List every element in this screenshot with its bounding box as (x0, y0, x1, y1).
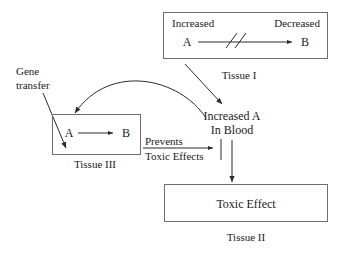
tissue-one-decreased-label: Decreased (274, 17, 320, 29)
tissue-one-species-b: B (301, 35, 309, 49)
tissue-two-caption: Tissue II (227, 231, 266, 243)
gene-transfer-line-one: Gene (16, 65, 39, 77)
blood-node-line-one: Increased A (204, 109, 261, 123)
toxic-effect-label: Toxic Effect (216, 197, 276, 211)
blocked-slash-icon (235, 33, 246, 48)
prevents-edge-line-one: Prevents (145, 135, 183, 147)
tissue-three-species-a: A (65, 126, 74, 140)
tissue-three-caption: Tissue III (74, 158, 116, 170)
tissue-one-caption: Tissue I (222, 69, 257, 81)
blood-to-tissue-three-curve (75, 81, 206, 118)
tissue-one-species-a: A (183, 35, 192, 49)
gene-transfer-line-two: transfer (16, 79, 50, 91)
gene-transfer-arrow (43, 93, 66, 148)
blocked-slash-icon (226, 33, 237, 48)
pathway-diagram: Increased Decreased A B Tissue I Increas… (0, 0, 341, 256)
diagram-canvas: Increased Decreased A B Tissue I Increas… (0, 0, 341, 256)
tissue-one-to-blood-arrow (185, 64, 222, 104)
prevents-edge-line-two: Toxic Effects (145, 150, 204, 162)
tissue-three-species-b: B (122, 126, 130, 140)
blood-node-line-two: In Blood (211, 123, 253, 137)
tissue-one-increased-label: Increased (172, 17, 215, 29)
